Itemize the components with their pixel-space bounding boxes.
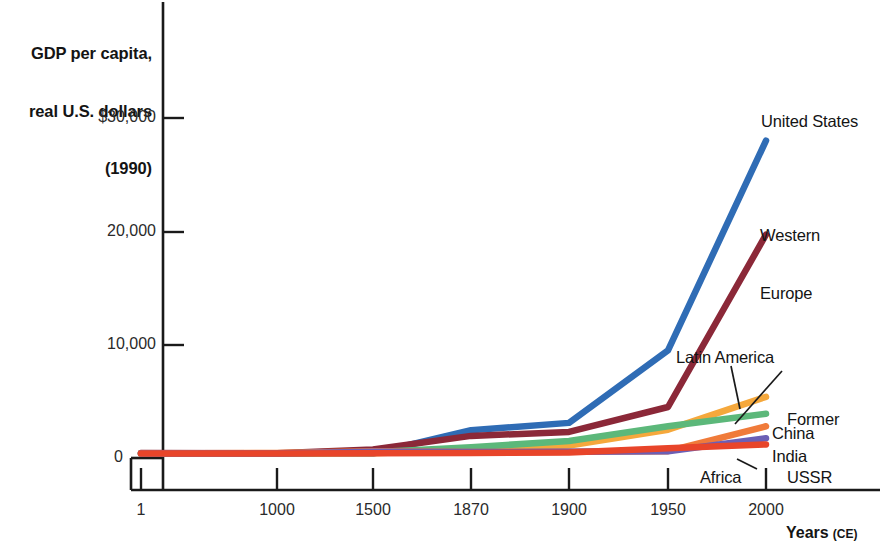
x-tick-label-1500: 1500	[336, 501, 410, 520]
series-label-western-europe-line-1: Western	[760, 226, 820, 245]
x-axis-caption: Years(CE)	[786, 524, 857, 543]
y-tick-marks	[163, 118, 184, 345]
x-tick-label-1000: 1000	[240, 501, 314, 520]
series-label-latin-america: Latin America	[676, 348, 774, 367]
y-axis-title-line-1: GDP per capita,	[0, 44, 152, 63]
x-tick-marks	[141, 468, 766, 490]
series-label-western-europe: Western Europe	[760, 188, 820, 341]
series-label-india: India	[772, 447, 807, 466]
series-label-china: China	[772, 424, 814, 443]
series-label-former-ussr-line-2: USSR	[787, 468, 839, 487]
y-tick-label-10000: 10,000	[20, 335, 156, 354]
x-tick-label-1950: 1950	[631, 501, 705, 520]
x-axis-caption-text: Years	[786, 524, 829, 541]
data-series-group	[141, 141, 766, 454]
leader-latin-america	[731, 366, 740, 409]
y-axis-title-line-3: (1990)	[0, 159, 152, 178]
series-label-western-europe-line-2: Europe	[760, 284, 820, 303]
x-axis-caption-era: (CE)	[833, 527, 858, 541]
chart-figure: GDP per capita, real U.S. dollars (1990)…	[0, 0, 895, 545]
series-label-united-states: United States	[761, 112, 858, 131]
x-tick-label-1: 1	[111, 501, 171, 520]
y-tick-label-20000: 20,000	[20, 222, 156, 241]
x-tick-label-1870: 1870	[434, 501, 508, 520]
series-line-united-states	[141, 141, 766, 454]
series-label-africa: Africa	[700, 468, 741, 487]
y-tick-label-0: 0	[20, 448, 123, 467]
x-tick-label-1900: 1900	[532, 501, 606, 520]
y-tick-label-30000: $30,000	[20, 108, 156, 127]
